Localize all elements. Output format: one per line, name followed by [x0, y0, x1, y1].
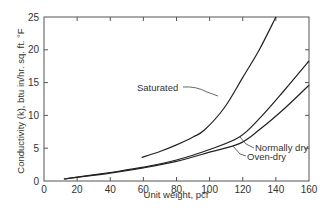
x-axis-title: Unit weight, pcf: [144, 189, 209, 200]
x-tick-label: 140: [268, 184, 285, 195]
y-tick-label: 0: [33, 176, 39, 187]
y-tick-label: 20: [28, 44, 40, 55]
oven-dry-curve: [64, 85, 309, 179]
y-tick-label: 5: [33, 143, 39, 154]
oven-dry-label: Oven-dry: [247, 151, 286, 162]
conductivity-chart: 0204060801001201401600510152025 Saturate…: [0, 0, 327, 211]
x-tick-label: 120: [234, 184, 251, 195]
saturated-leader: [183, 87, 218, 96]
y-tick-label: 25: [28, 12, 40, 23]
y-tick-label: 10: [28, 110, 40, 121]
y-tick-label: 15: [28, 77, 40, 88]
saturated-label: Saturated: [137, 82, 178, 93]
x-tick-label: 20: [72, 184, 84, 195]
x-tick-label: 0: [41, 184, 47, 195]
oven-dry-leader: [233, 146, 246, 156]
axis-ticks: 0204060801001201401600510152025: [28, 12, 318, 196]
x-tick-label: 40: [105, 184, 117, 195]
x-tick-label: 160: [301, 184, 318, 195]
y-axis-title: Conductivity (k), btu in/hr. sq. ft. °F: [15, 28, 26, 173]
